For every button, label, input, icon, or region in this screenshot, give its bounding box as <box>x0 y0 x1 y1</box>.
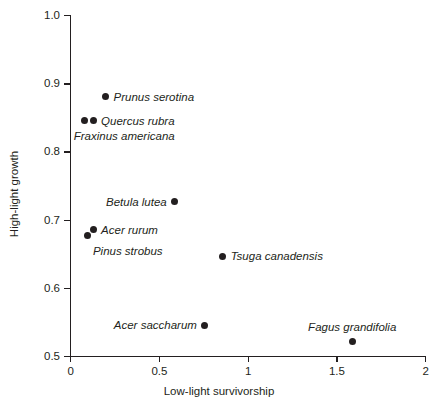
plot-area: 0.50.60.70.80.91.0 00.511.52 Prunus sero… <box>70 15 425 356</box>
data-point <box>171 198 178 205</box>
point-label: Betula lutea <box>106 195 167 208</box>
point-label: Acer rurum <box>101 223 158 236</box>
y-tick-label: 0.7 <box>44 212 60 228</box>
x-tick: 0 <box>70 356 71 362</box>
data-point <box>81 117 88 124</box>
y-tick: 0.9 <box>64 83 70 84</box>
y-tick-label: 0.5 <box>44 348 60 364</box>
x-tick-label: 1 <box>245 364 251 378</box>
x-axis-title: Low-light survivorship <box>0 385 438 397</box>
data-point <box>219 253 226 260</box>
caption-sliver <box>0 405 438 414</box>
x-tick: 0.5 <box>159 356 160 362</box>
x-tick: 2 <box>425 356 426 362</box>
y-tick-label: 0.6 <box>44 280 60 296</box>
point-label: Tsuga canadensis <box>231 250 323 263</box>
x-tick-label: 2 <box>422 364 428 378</box>
data-point <box>90 117 97 124</box>
y-tick-label: 1.0 <box>44 7 60 23</box>
point-label: Fraxinus americana <box>74 129 175 142</box>
x-tick-label: 0 <box>67 364 73 378</box>
point-label: Acer saccharum <box>114 319 197 332</box>
data-point <box>84 232 91 239</box>
y-tick: 0.8 <box>64 151 70 152</box>
data-point <box>349 338 356 345</box>
data-point <box>90 226 97 233</box>
x-tick-label: 0.5 <box>151 364 167 378</box>
y-axis-title: High-light growth <box>8 114 20 274</box>
scatter-plot-figure: 0.50.60.70.80.91.0 00.511.52 Prunus sero… <box>0 0 438 414</box>
point-label: Prunus serotina <box>114 90 195 103</box>
x-tick: 1.5 <box>336 356 337 362</box>
data-point <box>102 93 109 100</box>
y-tick-label: 0.8 <box>44 143 60 159</box>
x-tick-label: 1.5 <box>329 364 345 378</box>
y-tick: 0.7 <box>64 220 70 221</box>
point-label: Fagus grandifolia <box>308 320 396 333</box>
y-tick: 0.6 <box>64 288 70 289</box>
point-label: Quercus rubra <box>101 114 175 127</box>
y-tick-label: 0.9 <box>44 75 60 91</box>
y-axis-line <box>70 15 71 356</box>
y-tick: 1.0 <box>64 15 70 16</box>
point-label: Pinus strobus <box>93 244 163 257</box>
x-tick: 1 <box>248 356 249 362</box>
data-point <box>201 322 208 329</box>
